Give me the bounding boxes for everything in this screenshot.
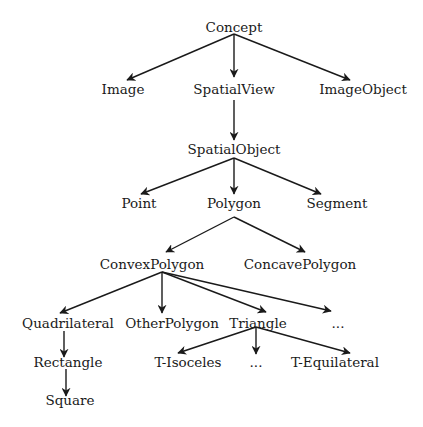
node-square: Square — [45, 392, 94, 408]
hierarchy-diagram: ConceptImageSpatialViewImageObjectSpatia… — [0, 0, 423, 427]
node-polygon: Polygon — [207, 195, 261, 211]
arrow-polygon-to-concavepolygon — [234, 217, 305, 252]
nodes-layer: ConceptImageSpatialViewImageObjectSpatia… — [22, 19, 407, 408]
arrow-polygon-to-convexpolygon — [166, 217, 234, 252]
node-otherpolygon: OtherPolygon — [125, 315, 219, 331]
node-image: Image — [102, 81, 145, 97]
arrow-concept-to-imageobject — [234, 34, 350, 80]
arrow-convexpolygon-to-quadrilateral — [60, 272, 162, 313]
node-imageobject: ImageObject — [319, 81, 407, 97]
node-triangle-more: ... — [250, 354, 263, 370]
arrow-spatialobject-to-segment — [234, 158, 321, 194]
arrow-concept-to-image — [127, 34, 234, 80]
node-t-equilateral: T-Equilateral — [291, 354, 379, 370]
node-t-isoceles: T-Isoceles — [155, 354, 222, 370]
node-point: Point — [121, 195, 157, 211]
node-spatialobject: SpatialObject — [188, 141, 281, 157]
node-concept: Concept — [206, 19, 263, 35]
arrow-spatialobject-to-point — [141, 158, 234, 194]
node-convexpolygon: ConvexPolygon — [100, 256, 205, 272]
node-triangle: Triangle — [229, 315, 286, 331]
node-segment: Segment — [307, 195, 368, 211]
node-rectangle: Rectangle — [34, 354, 103, 370]
node-polygon-more: ... — [332, 315, 345, 331]
node-concavepolygon: ConcavePolygon — [244, 256, 357, 272]
node-spatialview: SpatialView — [193, 81, 275, 97]
node-quadrilateral: Quadrilateral — [22, 315, 114, 331]
